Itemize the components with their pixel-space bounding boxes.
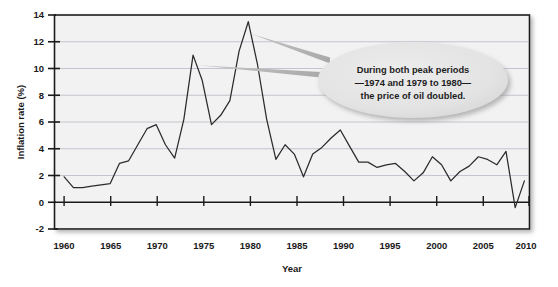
xtick-label-1995: 1995 xyxy=(380,240,402,251)
xtick-label-2010: 2010 xyxy=(515,240,536,251)
xtick-label-1980: 1980 xyxy=(240,240,261,251)
xtick-label-1975: 1975 xyxy=(193,240,215,251)
y-axis-tick-labels: 14 12 10 8 6 4 2 0 -2 xyxy=(33,9,44,234)
ytick-label-12: 12 xyxy=(33,36,44,47)
xtick-label-1990: 1990 xyxy=(333,240,354,251)
ytick-label-14: 14 xyxy=(33,9,44,20)
ytick-label-8: 8 xyxy=(39,90,44,101)
xtick-label-1985: 1985 xyxy=(286,240,308,251)
xtick-label-2005: 2005 xyxy=(473,240,495,251)
x-axis-tick-labels: 1960 1965 1970 1975 1980 1985 1990 1995 … xyxy=(54,240,537,251)
callout-line-2: —1974 and 1979 to 1980— xyxy=(355,78,472,88)
xtick-label-1970: 1970 xyxy=(147,240,168,251)
inflation-rate-chart-figure: 14 12 10 8 6 4 2 0 -2 Inflation rate (%) xyxy=(0,0,558,287)
chart-canvas: 14 12 10 8 6 4 2 0 -2 Inflation rate (%) xyxy=(0,0,558,287)
ytick-label-6: 6 xyxy=(39,116,44,127)
callout-text-block: During both peak periods —1974 and 1979 … xyxy=(355,65,472,101)
callout-line-1: During both peak periods xyxy=(357,65,470,75)
ytick-label-10: 10 xyxy=(33,63,44,74)
callout-line-3: the price of oil doubled. xyxy=(361,91,466,101)
ytick-label-2: 2 xyxy=(39,170,44,181)
ytick-label-0: 0 xyxy=(39,197,44,208)
xtick-label-1960: 1960 xyxy=(54,240,75,251)
ytick-label-neg2: -2 xyxy=(36,223,44,234)
x-axis-title: Year xyxy=(282,263,302,274)
y-axis-title: Inflation rate (%) xyxy=(15,85,26,159)
ytick-label-4: 4 xyxy=(39,143,45,154)
xtick-label-2000: 2000 xyxy=(426,240,447,251)
xtick-label-1965: 1965 xyxy=(100,240,122,251)
